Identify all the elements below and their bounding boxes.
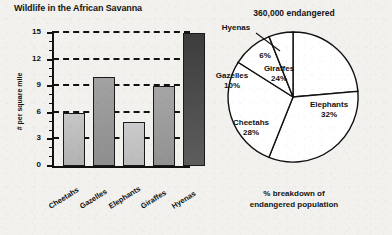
y-tick-label-12: 12 [32,55,41,63]
y-tick-label-6: 6 [37,108,41,116]
y-tick-15: 15 [47,32,54,34]
gridline-12 [53,58,190,60]
y-minor-tick-7 [49,103,54,104]
bar-chart-panel: Wildlife in the African Savanna # per sq… [0,0,196,235]
pie-label-cheetahs: Cheetahs 28% [218,118,284,138]
pie-caption-line-2: endangered population [250,200,338,209]
pie-label-cheetahs-value: 28% [243,128,259,137]
bar-giraffes[interactable] [153,86,175,166]
y-tick-3: 3 [47,138,54,140]
y-tick-label-3: 3 [37,134,41,142]
pie-label-gazelles-name: Gazelles [216,71,248,80]
y-tick-0: 0 [47,165,54,167]
x-axis-label-gazelles: Gazelles [78,187,109,211]
y-minor-tick-14 [49,41,54,42]
x-axis-label-hyenas: Hyenas [170,189,197,211]
y-minor-tick-11 [49,68,54,69]
x-axis-label-giraffes: Giraffes [139,188,168,211]
pie-chart-caption: % breakdown of endangered population [196,188,392,210]
x-axis-label-elephants: Elephants [107,184,142,211]
bar-chart-y-axis-label: # per square mile [16,59,23,145]
pie-label-gazelles-value: 10% [224,81,240,90]
y-minor-tick-1 [49,156,54,157]
gridline-15 [53,31,190,33]
pie-caption-line-1: % breakdown of [263,189,324,198]
y-tick-9: 9 [47,85,54,87]
y-tick-6: 6 [47,112,54,114]
y-tick-label-9: 9 [37,81,41,89]
x-axis-label-cheetahs: Cheetahs [47,185,80,211]
pie-label-hyenas-value: 6% [248,51,282,61]
pie-label-hyenas-name-outside: Hyenas [212,23,260,33]
y-minor-tick-2 [49,147,54,148]
y-minor-tick-13 [49,50,54,51]
bar-chart-plot-area: 0 3 6 9 12 15 Cheetahs Gazelles Elephant… [52,31,190,168]
y-minor-tick-5 [49,121,54,122]
pie-label-elephants-name: Elephants [310,100,348,109]
y-minor-tick-10 [49,76,54,77]
pie-label-giraffes-name: Giraffes [264,64,294,73]
y-minor-tick-4 [49,130,54,131]
bar-cheetahs[interactable] [63,113,85,166]
bar-elephants[interactable] [123,122,145,166]
y-tick-label-0: 0 [37,161,41,169]
pie-label-elephants: Elephants 32% [296,100,362,120]
pie-label-cheetahs-name: Cheetahs [233,118,269,127]
y-tick-label-15: 15 [32,28,41,36]
pie-label-gazelles: Gazelles 10% [200,71,264,91]
bar-gazelles[interactable] [93,77,115,166]
pie-label-giraffes-value: 24% [271,74,287,83]
pie-chart-panel: 360,000 endangered Giraffes 24% Elephant… [196,0,392,235]
x-axis-line [52,166,190,168]
y-tick-12: 12 [47,59,54,61]
bar-chart-title: Wildlife in the African Savanna [14,2,184,14]
pie-label-elephants-value: 32% [321,110,337,119]
y-minor-tick-8 [49,94,54,95]
